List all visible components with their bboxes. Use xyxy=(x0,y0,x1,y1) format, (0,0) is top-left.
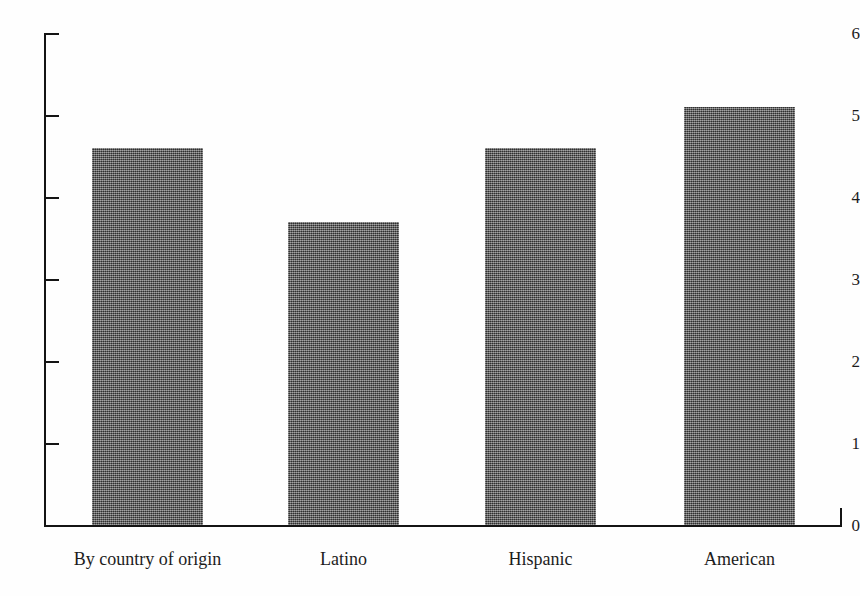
x-category-label-3: American xyxy=(639,548,840,570)
y-tick-1 xyxy=(46,443,59,445)
x-category-label-0: By country of origin xyxy=(47,548,248,570)
y-tick-label-6: 6 xyxy=(826,25,860,42)
bar-1 xyxy=(288,222,399,525)
y-tick-label-1: 1 xyxy=(826,435,860,452)
bar-3 xyxy=(684,107,795,525)
y-tick-label-2: 2 xyxy=(826,353,860,370)
x-category-label-2: Hispanic xyxy=(440,548,641,570)
x-category-label-1: Latino xyxy=(243,548,444,570)
y-tick-6 xyxy=(46,33,59,35)
y-tick-label-3: 3 xyxy=(826,271,860,288)
x-axis-line xyxy=(44,525,842,527)
bar-0 xyxy=(92,148,203,525)
bar-chart: 6 5 4 3 2 1 0 By country of origin Latin… xyxy=(0,0,860,596)
y-tick-4 xyxy=(46,197,59,199)
y-tick-label-5: 5 xyxy=(826,107,860,124)
y-tick-label-0: 0 xyxy=(826,517,860,534)
y-tick-5 xyxy=(46,115,59,117)
y-tick-label-4: 4 xyxy=(826,189,860,206)
y-tick-2 xyxy=(46,361,59,363)
plot-area: 6 5 4 3 2 1 0 By country of origin Latin… xyxy=(0,0,860,596)
bar-2 xyxy=(485,148,596,525)
y-tick-3 xyxy=(46,279,59,281)
